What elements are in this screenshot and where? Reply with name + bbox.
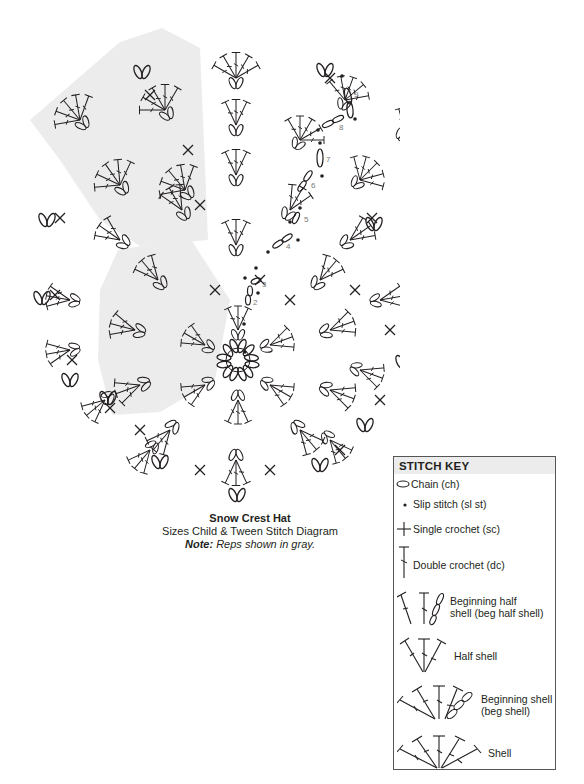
key-label-beginning-half-shell: Beginning half shell (beg half shell)	[450, 595, 543, 619]
svg-text:9: 9	[354, 90, 359, 99]
pattern-title: Snow Crest Hat	[130, 512, 370, 525]
svg-text:4: 4	[286, 242, 291, 251]
key-item-half-shell: Half shell	[394, 637, 554, 673]
key-item-double-crochet: Double crochet (dc)	[394, 545, 554, 579]
stitch-key-title: STITCH KEY	[394, 457, 555, 474]
svg-text:7: 7	[326, 155, 331, 164]
beginning-shell-icon	[397, 683, 481, 721]
svg-text:8: 8	[339, 123, 344, 132]
single-crochet-icon	[396, 521, 412, 537]
diagram-note: Note: Reps shown in gray.	[130, 538, 370, 551]
key-item-beginning-shell: Beginning shell (beg shell)	[394, 683, 554, 721]
shell-icon	[397, 735, 483, 769]
note-label: Note:	[185, 538, 213, 550]
stitch-key: STITCH KEY Chain (ch) Slip stitch (sl st…	[393, 456, 556, 770]
svg-text:6: 6	[311, 181, 316, 190]
svg-text:2: 2	[253, 298, 258, 307]
key-item-slip-stitch: Slip stitch (sl st)	[394, 497, 554, 511]
svg-text:3: 3	[262, 280, 267, 289]
key-item-beginning-half-shell: Beginning half shell (beg half shell)	[394, 590, 554, 626]
key-item-chain: Chain (ch)	[394, 477, 554, 491]
chain-icon	[396, 479, 410, 489]
half-shell-icon	[397, 637, 449, 673]
stitch-diagram: 2 3 4 5 6 7 8 9	[0, 0, 400, 520]
diagram-subtitle: Sizes Child & Tween Stitch Diagram	[130, 525, 370, 538]
svg-text:5: 5	[304, 215, 309, 224]
key-item-single-crochet: Single crochet (sc)	[394, 520, 554, 536]
key-item-shell: Shell	[394, 735, 554, 769]
beginning-half-shell-icon	[397, 590, 449, 626]
diagram-caption: Snow Crest Hat Sizes Child & Tween Stitc…	[130, 512, 370, 551]
double-crochet-icon	[397, 545, 411, 579]
slip-stitch-icon	[400, 500, 410, 510]
key-label-beginning-shell: Beginning shell (beg shell)	[481, 693, 552, 717]
note-text: Reps shown in gray.	[216, 538, 315, 550]
